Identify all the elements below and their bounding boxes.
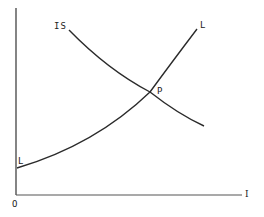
intersection-label: P [157,87,162,96]
x-axis-label: I [245,190,249,199]
is-curve-label: IS [54,22,67,31]
lm-curve-start-label: L [18,157,23,166]
origin-label: O [12,200,17,209]
is-lm-diagram [0,0,264,217]
lm-curve [17,29,197,168]
lm-curve-end-label: L [200,21,205,30]
is-curve [69,30,204,126]
